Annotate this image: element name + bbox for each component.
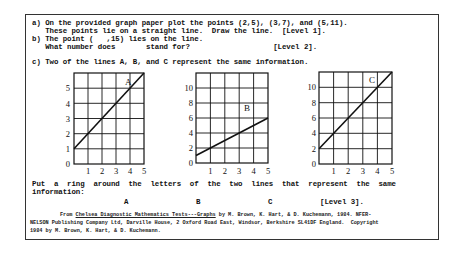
svg-text:3: 3 bbox=[237, 166, 241, 176]
svg-text:0: 0 bbox=[312, 159, 316, 169]
svg-text:3: 3 bbox=[114, 166, 118, 176]
svg-text:2: 2 bbox=[346, 166, 350, 176]
line-a bbox=[74, 73, 144, 149]
question-c-line1: c) Two of the lines A, B, and C represen… bbox=[32, 58, 308, 66]
instruction-line2: information: bbox=[32, 188, 85, 196]
level3-label: [Level 3]. bbox=[320, 198, 364, 206]
question-b-line2: What number does stand for? [Level 2]. bbox=[32, 43, 317, 51]
graph-a-label: A bbox=[125, 77, 132, 87]
graph-b: B 0 2 4 6 8 10 1 2 3 4 5 bbox=[196, 73, 270, 170]
svg-text:8: 8 bbox=[189, 98, 193, 108]
svg-text:5: 5 bbox=[66, 83, 70, 93]
svg-text:4: 4 bbox=[375, 166, 380, 176]
svg-text:6: 6 bbox=[189, 113, 193, 123]
svg-text:8: 8 bbox=[312, 98, 316, 108]
graph-c-label: C bbox=[369, 75, 375, 85]
svg-text:2: 2 bbox=[100, 166, 104, 176]
svg-text:3: 3 bbox=[361, 166, 365, 176]
svg-text:10: 10 bbox=[185, 83, 194, 93]
svg-text:1: 1 bbox=[331, 166, 335, 176]
svg-text:2: 2 bbox=[66, 129, 70, 139]
source-title: Chelsea Diagnostic Mathematics Tests---G… bbox=[76, 212, 216, 218]
line-b bbox=[196, 118, 268, 156]
graph-c: C 0 2 4 6 8 10 1 2 3 4 5 bbox=[319, 72, 395, 171]
svg-text:1: 1 bbox=[86, 166, 90, 176]
choice-a[interactable]: A bbox=[124, 198, 128, 206]
svg-text:5: 5 bbox=[390, 166, 394, 176]
question-a-line2: These points lie on a straight line. Dra… bbox=[32, 27, 326, 35]
svg-text:2: 2 bbox=[312, 144, 316, 154]
svg-text:1: 1 bbox=[66, 144, 70, 154]
line-c bbox=[319, 72, 392, 149]
choice-b[interactable]: B bbox=[196, 198, 200, 206]
svg-text:5: 5 bbox=[142, 166, 146, 176]
credit-line2: NELSON Publishing Company Ltd, Darville … bbox=[30, 220, 379, 227]
svg-text:0: 0 bbox=[66, 159, 70, 169]
graph-a: A 0 1 2 3 4 5 1 2 3 4 5 bbox=[74, 73, 146, 170]
credit-line3: 1984 by M. Brown, K. Hart, & D. Kucheman… bbox=[30, 228, 161, 235]
svg-text:4: 4 bbox=[251, 166, 256, 176]
svg-text:10: 10 bbox=[308, 82, 317, 92]
svg-text:6: 6 bbox=[312, 113, 316, 123]
svg-text:2: 2 bbox=[189, 143, 193, 153]
svg-text:3: 3 bbox=[66, 114, 70, 124]
choice-c[interactable]: C bbox=[268, 198, 272, 206]
graph-b-label: B bbox=[244, 103, 250, 113]
question-a-line1: a) On the provided graph paper plot the … bbox=[32, 19, 348, 27]
svg-text:5: 5 bbox=[266, 166, 270, 176]
credit-line1: From Chelsea Diagnostic Mathematics Test… bbox=[60, 212, 371, 219]
question-b-line1: b) The point ( ,15) lies on the line. bbox=[32, 35, 203, 43]
svg-text:0: 0 bbox=[189, 158, 193, 168]
svg-text:1: 1 bbox=[208, 166, 212, 176]
svg-text:2: 2 bbox=[223, 166, 227, 176]
instruction-line1: Put a ring around the letters of the two… bbox=[32, 180, 396, 188]
